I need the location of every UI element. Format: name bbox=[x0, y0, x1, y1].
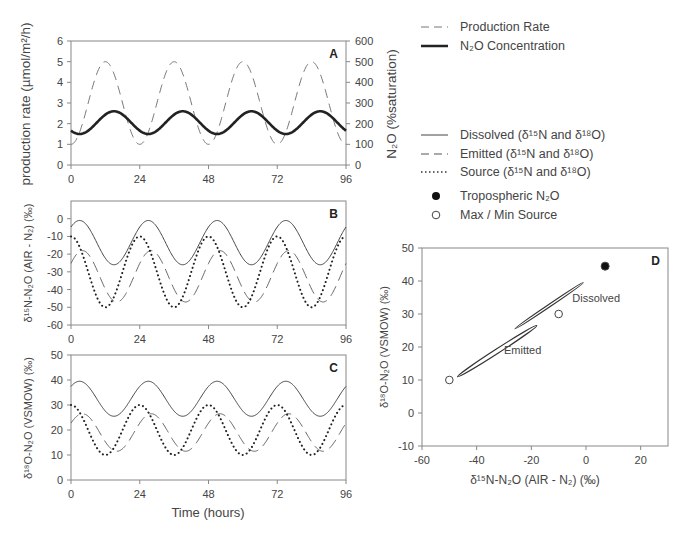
legend-filled-circle-icon bbox=[432, 192, 440, 200]
y-tick-label: 40 bbox=[51, 374, 63, 386]
y-tick-label: 4 bbox=[57, 76, 63, 88]
series-emitted bbox=[71, 414, 346, 452]
legend-tropospheric: Tropospheric N₂O bbox=[460, 189, 560, 203]
panel-a: 02448729601234560100200300400500600A bbox=[57, 35, 373, 185]
open-circle-icon bbox=[555, 310, 563, 318]
x-tick-label: 48 bbox=[202, 173, 214, 185]
legend-maxmin: Max / Min Source bbox=[460, 208, 557, 222]
y-tick-label: 20 bbox=[402, 341, 414, 353]
panel-a-y2label: N₂O (%saturation) bbox=[384, 49, 399, 159]
x-tick-label: 96 bbox=[340, 333, 352, 345]
y2-tick-label: 400 bbox=[355, 76, 373, 88]
plot-frame bbox=[422, 248, 668, 446]
x-tick-label: 24 bbox=[134, 173, 146, 185]
x-tick-label: 96 bbox=[340, 173, 352, 185]
y-tick-label: -40 bbox=[47, 284, 63, 296]
y-tick-label: 20 bbox=[51, 424, 63, 436]
y-tick-label: 5 bbox=[57, 56, 63, 68]
open-circle-icon bbox=[446, 376, 454, 384]
y2-tick-label: 100 bbox=[355, 138, 373, 150]
x-tick-label: 20 bbox=[635, 454, 647, 466]
y-tick-label: 50 bbox=[402, 242, 414, 254]
y-tick-label: 0 bbox=[57, 159, 63, 171]
y-tick-label: 1 bbox=[57, 138, 63, 150]
legend-dissolved: Dissolved (δ¹⁵N and δ¹⁸O) bbox=[460, 128, 605, 142]
y-tick-label: 30 bbox=[51, 399, 63, 411]
y-tick-label: 10 bbox=[51, 449, 63, 461]
y-tick-label: 10 bbox=[402, 374, 414, 386]
y-tick-label: -20 bbox=[47, 248, 63, 260]
panel-label: D bbox=[651, 254, 660, 268]
x-tick-label: 72 bbox=[271, 333, 283, 345]
x-tick-label: 0 bbox=[68, 173, 74, 185]
panel-b: 024487296-60-50-40-30-20-100B bbox=[47, 201, 352, 345]
panel-d-ylabel: δ¹⁸O-N₂O (VSMOW) (‰) bbox=[378, 286, 390, 408]
y-tick-label: 30 bbox=[402, 308, 414, 320]
y2-tick-label: 600 bbox=[355, 35, 373, 47]
y-tick-label: -10 bbox=[47, 230, 63, 242]
y-tick-label: 6 bbox=[57, 35, 63, 47]
figure: 02448729601234560100200300400500600A 024… bbox=[0, 0, 692, 538]
x-tick-label: -60 bbox=[414, 454, 430, 466]
y-tick-label: 50 bbox=[51, 349, 63, 361]
legend-production-rate: Production Rate bbox=[460, 20, 550, 34]
x-tick-label: -20 bbox=[523, 454, 539, 466]
plot-frame bbox=[71, 355, 346, 480]
x-tick-label: 0 bbox=[68, 333, 74, 345]
x-tick-label: 48 bbox=[202, 333, 214, 345]
x-tick-label: 72 bbox=[271, 488, 283, 500]
y-tick-label: -60 bbox=[47, 319, 63, 331]
legend-open-circle-icon bbox=[432, 211, 440, 219]
y-tick-label: 3 bbox=[57, 97, 63, 109]
x-tick-label: 0 bbox=[583, 454, 589, 466]
panel-b-ylabel: δ¹⁵N-N₂O (AIR - N₂) (‰) bbox=[22, 204, 34, 323]
panel-a-ylabel: production rate (µmol/m²/h) bbox=[18, 22, 33, 185]
plot-frame bbox=[71, 41, 346, 165]
y2-tick-label: 200 bbox=[355, 118, 373, 130]
annotation-emitted: Emitted bbox=[504, 344, 541, 356]
series-source bbox=[71, 405, 346, 455]
filled-circle-icon bbox=[601, 262, 609, 270]
y-tick-label: 0 bbox=[57, 474, 63, 486]
series-dissolved bbox=[71, 381, 346, 416]
y-tick-label: 40 bbox=[402, 275, 414, 287]
series-dissolved bbox=[71, 221, 346, 265]
panel-c: 02448729601020304050C bbox=[51, 349, 352, 500]
x-tick-label: -40 bbox=[469, 454, 485, 466]
annotation-dissolved: Dissolved bbox=[572, 292, 620, 304]
y-tick-label: 0 bbox=[57, 213, 63, 225]
legend-n2o-concentration: N₂O Concentration bbox=[460, 39, 565, 53]
panel-label: C bbox=[329, 361, 338, 375]
y2-tick-label: 500 bbox=[355, 56, 373, 68]
panel-d: -60-40-20020-1001020304050DDissolvedEmit… bbox=[398, 242, 668, 466]
y-tick-label: -30 bbox=[47, 266, 63, 278]
panel-label: B bbox=[329, 207, 338, 221]
legend-emitted: Emitted (δ¹⁵N and δ¹⁸O) bbox=[460, 147, 593, 161]
loop-dissolved bbox=[514, 282, 584, 330]
legend: Production Rate N₂O Concentration Dissol… bbox=[421, 20, 605, 222]
x-tick-label: 24 bbox=[134, 488, 146, 500]
x-tick-label: 0 bbox=[68, 488, 74, 500]
panel-c-ylabel: δ¹⁸O-N₂O (VSMOW) (‰) bbox=[22, 357, 34, 479]
series-n-o-concentration bbox=[71, 111, 346, 134]
x-tick-label: 24 bbox=[134, 333, 146, 345]
panel-c-xlabel: Time (hours) bbox=[171, 505, 244, 520]
y-tick-label: -10 bbox=[398, 440, 414, 452]
series-emitted bbox=[71, 251, 346, 302]
panel-label: A bbox=[329, 47, 338, 61]
y2-tick-label: 0 bbox=[355, 159, 361, 171]
panel-d-xlabel: δ¹⁵N-N₂O (AIR - N₂) (‰) bbox=[470, 473, 600, 487]
legend-source: Source (δ¹⁵N and δ¹⁸O) bbox=[460, 165, 591, 179]
x-tick-label: 48 bbox=[202, 488, 214, 500]
y2-tick-label: 300 bbox=[355, 97, 373, 109]
y-tick-label: -50 bbox=[47, 301, 63, 313]
y-tick-label: 2 bbox=[57, 118, 63, 130]
x-tick-label: 72 bbox=[271, 173, 283, 185]
y-tick-label: 0 bbox=[408, 407, 414, 419]
x-tick-label: 96 bbox=[340, 488, 352, 500]
